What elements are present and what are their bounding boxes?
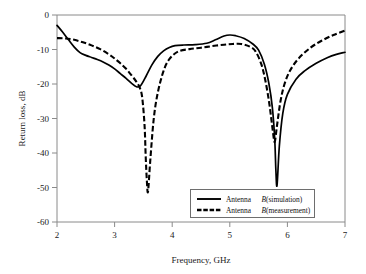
- y-tick-label: -30: [37, 114, 49, 124]
- y-tick-label: 0: [45, 10, 50, 20]
- legend-label-measurement-prefix: Antenna: [226, 206, 252, 215]
- x-tick-label: 4: [170, 230, 175, 240]
- legend-label-simulation-prefix: Antenna: [226, 195, 252, 204]
- x-axis-title: Frequency, GHz: [172, 255, 231, 265]
- y-tick-label: -60: [37, 217, 49, 227]
- x-tick-label: 6: [285, 230, 290, 240]
- y-axis-title: Return loss, dB: [17, 91, 27, 147]
- y-tick-label: -40: [37, 148, 49, 158]
- x-tick-label: 7: [343, 230, 348, 240]
- x-tick-marks: [57, 222, 345, 227]
- x-tick-labels: 2 3 4 5 6 7: [55, 230, 348, 240]
- chart-legend: Antenna B (simulation) Antenna B (measur…: [191, 190, 315, 218]
- x-tick-label: 5: [228, 230, 233, 240]
- y-tick-label: -10: [37, 45, 49, 55]
- legend-label-measurement-suffix: (measurement): [266, 206, 311, 215]
- return-loss-chart-figure: 0 -10 -20 -30 -40 -50 -60 2 3 4 5 6 7: [0, 0, 366, 274]
- x-tick-label: 2: [55, 230, 60, 240]
- y-tick-label: -20: [37, 79, 49, 89]
- y-tick-marks: [52, 15, 57, 222]
- legend-label-simulation-suffix: (simulation): [266, 195, 303, 204]
- y-tick-label: -50: [37, 183, 49, 193]
- y-tick-labels: 0 -10 -20 -30 -40 -50 -60: [37, 10, 50, 227]
- chart-canvas: 0 -10 -20 -30 -40 -50 -60 2 3 4 5 6 7: [0, 0, 366, 274]
- x-tick-label: 3: [112, 230, 117, 240]
